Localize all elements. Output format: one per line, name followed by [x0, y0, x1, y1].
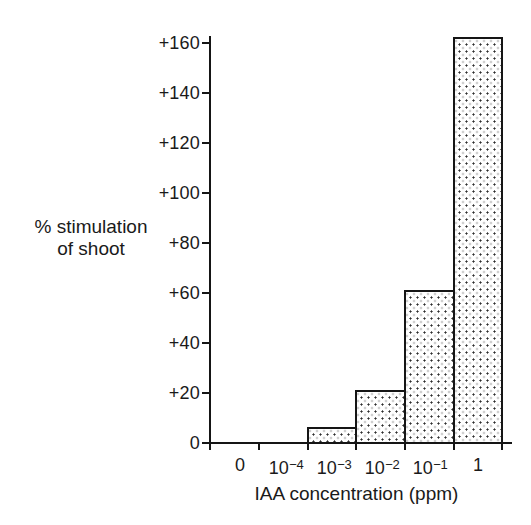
- x-tick-mark: [307, 444, 309, 450]
- x-axis-line: [202, 442, 512, 444]
- y-tick-mark: [202, 92, 209, 94]
- bar: [453, 37, 503, 442]
- y-tick-mark: [202, 442, 209, 444]
- bar: [307, 427, 357, 442]
- x-tick-label: 1: [443, 454, 513, 476]
- y-tick-mark: [202, 42, 209, 44]
- x-tick-label-base: 10: [317, 458, 337, 478]
- x-tick-label-base: 10: [365, 458, 385, 478]
- x-tick-mark: [258, 444, 260, 450]
- x-tick-label-base: 0: [235, 455, 245, 475]
- y-tick-mark: [202, 342, 209, 344]
- y-axis-line: [209, 36, 211, 450]
- y-tick-label: +100: [118, 182, 200, 204]
- y-tick-mark: [202, 142, 209, 144]
- x-tick-mark: [355, 444, 357, 450]
- y-tick-label: 0: [118, 432, 200, 454]
- x-tick-mark: [404, 444, 406, 450]
- y-tick-mark: [202, 392, 209, 394]
- y-tick-label: +60: [118, 282, 200, 304]
- x-tick-label-base: 10: [269, 458, 289, 478]
- y-tick-label: +120: [118, 132, 200, 154]
- y-tick-label: +20: [118, 382, 200, 404]
- x-tick-label-base: 1: [473, 455, 483, 475]
- y-tick-mark: [202, 292, 209, 294]
- x-tick-mark: [501, 444, 503, 450]
- bar: [355, 390, 406, 442]
- y-tick-label: +80: [118, 232, 200, 254]
- y-tick-mark: [202, 242, 209, 244]
- bar: [404, 290, 455, 442]
- figure-canvas: % stimulation of shoot 0+20+40+60+80+100…: [0, 0, 531, 525]
- y-tick-mark: [202, 192, 209, 194]
- y-tick-label: +160: [118, 32, 200, 54]
- y-tick-label: +140: [118, 82, 200, 104]
- y-tick-label: +40: [118, 332, 200, 354]
- x-tick-label-base: 10: [413, 458, 433, 478]
- x-axis-title: IAA concentration (ppm): [205, 483, 508, 505]
- x-tick-mark: [453, 444, 455, 450]
